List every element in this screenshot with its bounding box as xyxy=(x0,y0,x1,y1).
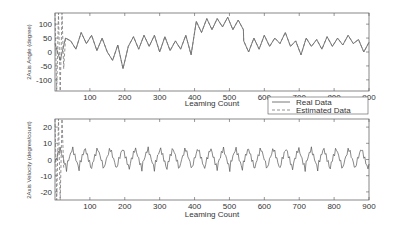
bottom-plot: 100200300400500600700800900 20100-10-20 … xyxy=(26,119,376,219)
top-y-axis-label: 2Axis Angle (degree) xyxy=(26,24,32,80)
y-tick-label: 10 xyxy=(43,139,52,148)
legend-estimated-data: Estimated Data xyxy=(296,106,351,115)
bottom-x-ticks: 100200300400500600700800900 xyxy=(83,119,376,211)
y-tick-label: -100 xyxy=(36,76,53,85)
y-tick-label: 20 xyxy=(43,123,52,132)
y-tick-label: 0 xyxy=(48,156,53,165)
x-tick-label: 200 xyxy=(118,93,132,102)
x-tick-label: 100 xyxy=(83,202,97,211)
y-tick-label: 50 xyxy=(43,34,52,43)
x-tick-label: 300 xyxy=(153,93,167,102)
x-tick-label: 600 xyxy=(258,202,272,211)
y-tick-label: 0 xyxy=(48,48,53,57)
x-tick-label: 100 xyxy=(83,93,97,102)
x-tick-label: 800 xyxy=(327,202,341,211)
top-x-axis-label: Leaming Count xyxy=(185,99,240,108)
x-tick-label: 900 xyxy=(362,202,376,211)
top-x-ticks: 100200300400500600700800900 xyxy=(83,13,376,102)
x-tick-label: 700 xyxy=(293,202,307,211)
bottom-plot-frame xyxy=(55,119,369,200)
legend: Real Data Estimated Data xyxy=(268,97,368,115)
y-tick-label: -50 xyxy=(40,62,52,71)
bottom-real-data-line xyxy=(55,147,369,172)
top-estimated-data-line xyxy=(55,13,369,91)
x-tick-label: 200 xyxy=(118,202,132,211)
x-tick-label: 300 xyxy=(153,202,167,211)
bottom-y-axis-label: 2Axis Velocity (degree/count) xyxy=(26,121,32,199)
y-tick-label: -10 xyxy=(40,172,52,181)
bottom-x-axis-label: Leaming Count xyxy=(185,210,240,219)
y-tick-label: -20 xyxy=(40,188,52,197)
y-tick-label: 100 xyxy=(39,20,53,29)
top-plot-frame xyxy=(55,13,369,91)
figure: 100200300400500600700800900 100500-50-10… xyxy=(0,0,395,226)
top-plot: 100200300400500600700800900 100500-50-10… xyxy=(26,13,376,108)
top-real-data-line xyxy=(55,17,369,68)
